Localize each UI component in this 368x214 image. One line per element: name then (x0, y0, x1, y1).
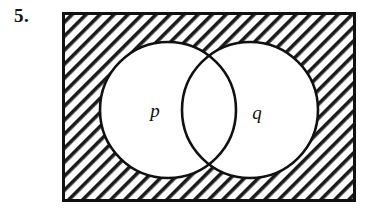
set-label-q: q (252, 102, 262, 123)
venn-diagram-figure: 5. p q (0, 0, 368, 214)
set-label-p: p (148, 100, 160, 121)
venn-diagram-svg: p q (0, 0, 368, 214)
shaded-region-outside-both-sets (62, 12, 356, 202)
